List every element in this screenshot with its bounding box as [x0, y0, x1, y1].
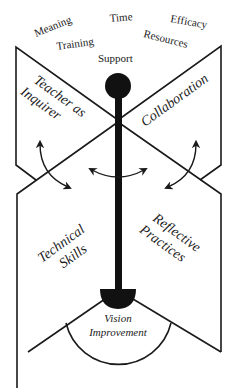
vision-label-line1: Vision: [104, 312, 132, 324]
panel-labels: Teacher as Inquirer Collaboration Techni…: [17, 69, 211, 279]
label-resources: Resources: [143, 27, 190, 50]
lower-right-wing: [118, 122, 221, 352]
label-time: Time: [109, 10, 133, 24]
vision-label-line2: Improvement: [88, 326, 148, 338]
spine-shaft: [115, 95, 122, 290]
label-efficacy: Efficacy: [170, 12, 209, 30]
spine-bottom-bulb: [100, 289, 136, 309]
right-curved-arrow-icon: [168, 144, 196, 187]
label-meaning: Meaning: [32, 13, 73, 39]
upper-right-wing: [118, 46, 221, 180]
vision-improvement-label: Vision Improvement: [88, 312, 148, 338]
top-factor-labels: Meaning Time Efficacy Training Resources…: [32, 10, 208, 64]
label-support: Support: [98, 52, 133, 64]
left-curved-arrow-icon: [40, 144, 68, 187]
label-training: Training: [56, 35, 95, 52]
central-spine: [100, 73, 136, 309]
butterfly-diagram: Meaning Time Efficacy Training Resources…: [0, 0, 237, 390]
upper-left-wing: [16, 47, 118, 180]
